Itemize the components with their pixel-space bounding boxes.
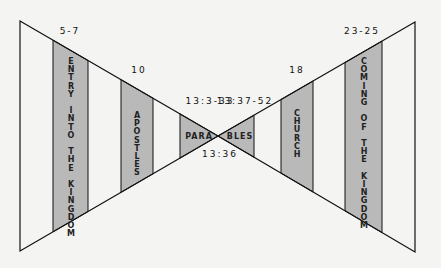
band-text: O (68, 131, 75, 140)
ref-label: 13:37-52 (217, 96, 274, 106)
ref-label: 10 (131, 65, 146, 75)
ref-label: 23-25 (344, 26, 380, 36)
center-ref-label: 13:36 (202, 149, 238, 159)
band-text: M (67, 229, 75, 238)
band-text: BLES (227, 132, 253, 141)
band-text: M (360, 221, 368, 230)
band-text: G (361, 98, 368, 107)
ref-label: 5-7 (60, 26, 81, 36)
band-text: PARA (185, 132, 213, 141)
chiasm-diagram: 5-71013:3-3313:37-521823-2513:36ENTRYINT… (0, 0, 441, 268)
band-text: H (294, 150, 301, 159)
band-text: Y (67, 90, 74, 99)
band-text: S (134, 168, 140, 177)
band-text: E (68, 164, 73, 173)
band-text: F (361, 123, 366, 132)
ref-label: 18 (289, 65, 304, 75)
band-text: E (361, 155, 366, 164)
